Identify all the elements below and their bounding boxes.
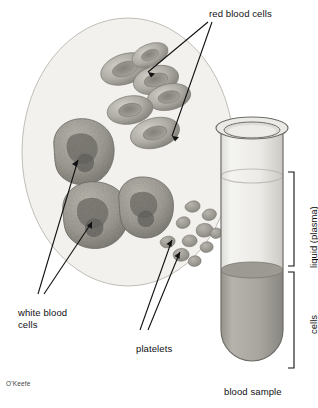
label-platelets: platelets bbox=[136, 343, 172, 355]
cells-region bbox=[219, 270, 285, 380]
platelet bbox=[188, 256, 201, 267]
white-blood-cell bbox=[119, 177, 174, 238]
label-liquid-plasma: liquid (plasma) bbox=[308, 206, 318, 268]
plasma-region bbox=[219, 128, 285, 268]
plasma-cells-boundary bbox=[221, 262, 283, 278]
white-blood-cell bbox=[63, 182, 129, 249]
label-red-blood-cells: red blood cells bbox=[209, 8, 272, 20]
artist-signature: O'Keefe bbox=[6, 380, 31, 387]
bracket-cells bbox=[288, 272, 294, 368]
platelet bbox=[200, 242, 213, 253]
platelet bbox=[210, 228, 222, 238]
platelet bbox=[182, 235, 197, 247]
test-tube bbox=[216, 117, 288, 380]
label-white-blood-cells-line1: white blood bbox=[18, 307, 67, 319]
platelet bbox=[173, 248, 189, 261]
label-white-blood-cells-line2: cells bbox=[18, 319, 38, 331]
blood-composition-diagram: red blood cells white blood cells platel… bbox=[0, 0, 318, 408]
label-cells: cells bbox=[308, 315, 318, 334]
label-blood-sample: blood sample bbox=[224, 386, 282, 398]
white-blood-cell bbox=[54, 119, 114, 185]
bracket-liquid-plasma bbox=[288, 172, 294, 266]
